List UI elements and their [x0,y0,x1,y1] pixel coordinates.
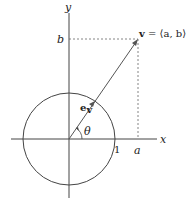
tick-label-b: b [57,33,64,46]
vector-v [69,42,136,139]
tick-label-a: a [134,144,141,157]
unit-vector-diagram: y x b a 1 v = ⟨a, b⟩ ev θ [0,0,193,204]
angle-arc [76,128,82,139]
vector-v-arrowhead [132,39,138,46]
vector-v-label: v = ⟨a, b⟩ [138,28,186,39]
unit-vector-label: ev [80,102,93,115]
y-axis-label: y [64,1,72,14]
tick-label-1: 1 [114,144,120,155]
angle-label: θ [84,125,91,138]
x-axis-label: x [160,133,167,146]
